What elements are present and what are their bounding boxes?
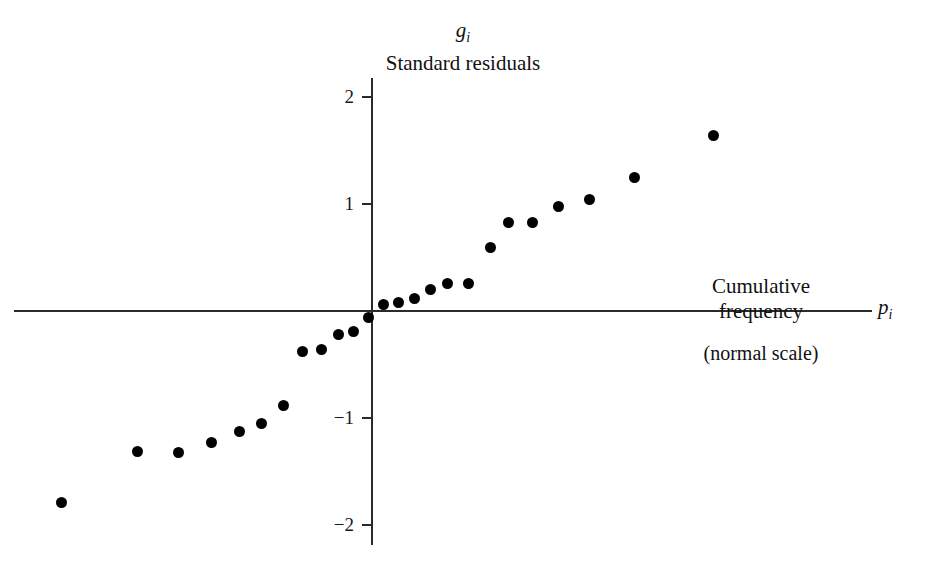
normal-probability-plot: gi Standard residuals Cumulative frequen… — [0, 0, 926, 572]
data-point — [425, 284, 436, 295]
y-axis-symbol: gi — [0, 18, 926, 50]
data-point — [297, 346, 308, 357]
data-point — [348, 326, 359, 337]
y-axis-tick-label: 2 — [314, 87, 354, 106]
data-point — [234, 426, 245, 437]
data-point — [553, 201, 564, 212]
y-axis-title: gi Standard residuals — [0, 18, 926, 76]
y-axis-symbol-subscript: i — [466, 30, 470, 45]
data-point — [708, 130, 719, 141]
x-axis-label: Cumulative frequency — [668, 274, 854, 324]
data-point — [206, 437, 217, 448]
x-axis-symbol-subscript: i — [889, 307, 893, 322]
data-point — [485, 242, 496, 253]
x-axis-title: Cumulative frequency (normal scale) — [668, 274, 854, 366]
data-point — [503, 217, 514, 228]
y-axis-tick — [362, 203, 373, 205]
x-axis-symbol: pi — [878, 295, 892, 323]
data-point — [278, 400, 289, 411]
y-axis-tick-label: 1 — [314, 194, 354, 213]
y-axis-tick-label: −1 — [314, 408, 354, 427]
data-point — [132, 446, 143, 457]
data-point — [584, 194, 595, 205]
data-point — [629, 172, 640, 183]
data-point — [409, 293, 420, 304]
data-point — [316, 344, 327, 355]
y-axis-symbol-letter: g — [456, 18, 467, 42]
data-point — [527, 217, 538, 228]
data-point — [56, 497, 67, 508]
y-axis-tick — [362, 417, 373, 419]
y-axis-line — [371, 78, 373, 545]
y-axis-tick — [362, 524, 373, 526]
data-point — [393, 297, 404, 308]
y-axis-label: Standard residuals — [0, 50, 926, 76]
data-point — [463, 278, 474, 289]
y-axis-tick-label: −2 — [314, 515, 354, 534]
data-point — [333, 329, 344, 340]
data-point — [378, 299, 389, 310]
x-axis-sublabel: (normal scale) — [668, 341, 854, 366]
y-axis-tick — [362, 96, 373, 98]
data-point — [442, 278, 453, 289]
data-point — [256, 418, 267, 429]
x-axis-symbol-letter: p — [878, 295, 889, 319]
data-point — [173, 447, 184, 458]
